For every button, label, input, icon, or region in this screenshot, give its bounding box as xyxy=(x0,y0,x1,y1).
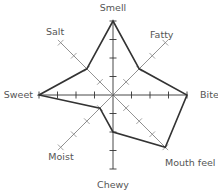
label-bite: Bite xyxy=(200,89,218,100)
label-salt: Salt xyxy=(46,26,64,37)
label-smell: Smell xyxy=(100,2,126,13)
label-fatty: Fatty xyxy=(150,29,174,40)
label-moist: Moist xyxy=(48,151,74,162)
label-mouth-feel: Mouth feel xyxy=(165,157,215,168)
label-sweet: Sweet xyxy=(4,89,33,100)
label-chewy: Chewy xyxy=(97,179,129,190)
radar-chart: SmellFattyBiteMouth feelChewyMoistSweetS… xyxy=(0,0,218,194)
